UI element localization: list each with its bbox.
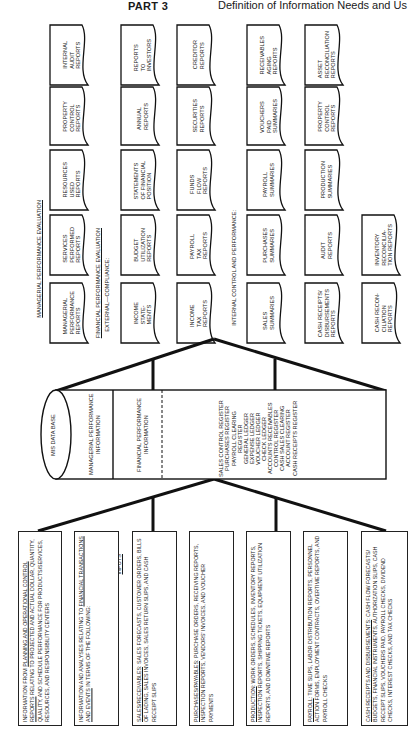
input-category: CASH RECEIPTS AND DISBURSEMENTS (365, 620, 371, 722)
input-box-text: PAYROLL: TIME SLIPS, LABOR DISTRIBUTION … (307, 535, 344, 722)
input-category: PRODUCTION (250, 686, 256, 722)
input-detail-text: RELATING TO PROJECTED AND ACTUAL DOLLAR,… (29, 539, 50, 722)
input-detail-text: : TIME SLIPS, LABOR DISTRIBUTION REPORTS… (307, 536, 328, 722)
financial-info-label: FINANCIAL PERFORMANCE INFORMATION (132, 392, 154, 477)
upper-connector-left (56, 339, 214, 391)
input-box: INFORMATION FROM PLANNING AND OPERATIONA… (18, 531, 62, 726)
lower-connector-right (214, 479, 386, 531)
input-lead-text: INFORMATION AND ANALYSES RELATING TO (78, 607, 84, 722)
input-category: PURCHASES/PAYABLES (193, 661, 199, 722)
input-detail-text: IN TERMS OF THE FOLLOWING: (85, 606, 91, 688)
input-box: CASH RECEIPTS AND DISBURSEMENTS: CASH FL… (361, 531, 408, 726)
input-box: INFORMATION AND ANALYSES RELATING TO FIN… (74, 531, 119, 726)
input-lead-text: INFORMATION FROM (22, 667, 28, 722)
input-box: PURCHASES/PAYABLES: PURCHASE ORDERS, REC… (189, 531, 234, 726)
input-category: SALES/RECEIVABLES (136, 667, 142, 722)
input-box-text: SALES/RECEIVABLES: SALES FORECASTS, CUST… (136, 535, 173, 722)
lower-connector-left (38, 479, 214, 531)
input-box-text: PURCHASES/PAYABLES: PURCHASE ORDERS, REC… (193, 535, 230, 722)
input-box: PAYROLL: TIME SLIPS, LABOR DISTRIBUTION … (303, 531, 348, 726)
input-box-text: PRODUCTION: WORK ORDERS, SCHEDULES, INVE… (250, 535, 287, 722)
upper-connector-right (214, 339, 386, 391)
managerial-info-label: MANAGERIAL PERFORMANCE INFORMATION (84, 392, 106, 477)
input-box-text: INFORMATION AND ANALYSES RELATING TO FIN… (78, 535, 115, 722)
input-category: PAYROLL (307, 698, 313, 722)
input-box: SALES/RECEIVABLES: SALES FORECASTS, CUST… (132, 531, 177, 726)
input-box-text: INFORMATION FROM PLANNING AND OPERATIONA… (22, 535, 58, 722)
input-box: PRODUCTION: WORK ORDERS, SCHEDULES, INVE… (246, 531, 291, 726)
input-box-text: CASH RECEIPTS AND DISBURSEMENTS: CASH FL… (365, 535, 404, 722)
mis-database-label: MIS DATA BASE (50, 395, 57, 475)
registers-list: SALES CONTROL REGISTER PURCHASES REGISTE… (203, 392, 313, 477)
